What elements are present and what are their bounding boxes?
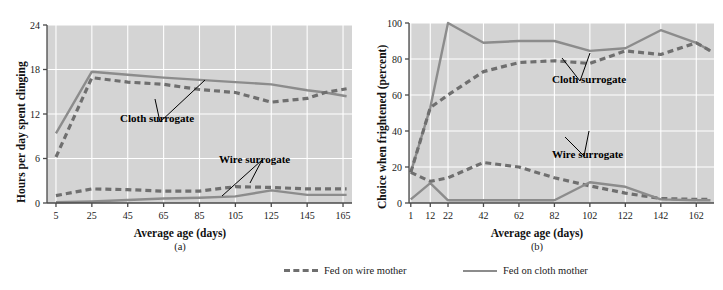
chart-svg-a: 06121824525456585105125145165: [0, 0, 361, 250]
svg-text:60: 60: [392, 90, 402, 101]
svg-text:102: 102: [582, 210, 597, 221]
svg-text:20: 20: [392, 162, 402, 173]
solid-line-swatch-icon: [463, 270, 497, 272]
svg-text:142: 142: [653, 210, 668, 221]
y-axis-title-b: Choice when frightened (percent): [376, 45, 388, 209]
svg-text:6: 6: [35, 153, 40, 164]
svg-text:65: 65: [159, 210, 169, 221]
svg-text:42: 42: [478, 210, 488, 221]
legend-label-wire-mother: Fed on wire mother: [324, 265, 407, 276]
figure-legend: Fed on wire mother Fed on cloth mother: [0, 255, 723, 290]
svg-text:22: 22: [443, 210, 453, 221]
svg-text:0: 0: [397, 198, 402, 209]
svg-text:100: 100: [387, 18, 402, 29]
svg-text:5: 5: [53, 210, 58, 221]
svg-text:62: 62: [514, 210, 524, 221]
svg-text:125: 125: [264, 210, 279, 221]
annotation-wire-surrogate-a: Wire surrogate: [219, 153, 290, 165]
legend-item-wire-mother: Fed on wire mother: [284, 265, 407, 276]
panel-caption-a: (a): [140, 241, 220, 252]
svg-text:0: 0: [35, 198, 40, 209]
dashed-line-swatch-icon: [284, 269, 318, 272]
x-axis-title-a: Average age (days): [60, 227, 300, 239]
chart-panel-a: Hours per day spent clinging 06121824525…: [0, 0, 361, 250]
svg-text:40: 40: [392, 126, 402, 137]
chart-panel-b: Choice when frightened (percent) 0204060…: [362, 0, 723, 250]
svg-text:80: 80: [392, 54, 402, 65]
svg-text:18: 18: [30, 64, 40, 75]
chart-svg-b: 02040608010011222426282102122142162: [362, 0, 723, 250]
svg-text:165: 165: [336, 210, 351, 221]
svg-text:162: 162: [689, 210, 704, 221]
legend-item-cloth-mother: Fed on cloth mother: [463, 265, 588, 276]
y-axis-title-a: Hours per day spent clinging: [15, 61, 27, 203]
svg-text:85: 85: [195, 210, 205, 221]
svg-text:12: 12: [30, 109, 40, 120]
svg-text:82: 82: [549, 210, 559, 221]
svg-text:12: 12: [425, 210, 435, 221]
panel-caption-b: (b): [497, 241, 577, 252]
svg-text:1: 1: [408, 210, 413, 221]
svg-text:24: 24: [30, 20, 40, 31]
annotation-cloth-surrogate-a: Cloth surrogate: [120, 112, 194, 124]
svg-text:122: 122: [618, 210, 633, 221]
annotation-cloth-surrogate-b: Cloth surrogate: [552, 73, 626, 85]
svg-text:45: 45: [123, 210, 133, 221]
legend-label-cloth-mother: Fed on cloth mother: [503, 265, 588, 276]
svg-text:25: 25: [87, 210, 97, 221]
annotation-wire-surrogate-b: Wire surrogate: [552, 148, 623, 160]
svg-text:145: 145: [300, 210, 315, 221]
figure-root: Hours per day spent clinging 06121824525…: [0, 0, 723, 290]
svg-text:105: 105: [228, 210, 243, 221]
x-axis-title-b: Average age (days): [417, 227, 657, 239]
